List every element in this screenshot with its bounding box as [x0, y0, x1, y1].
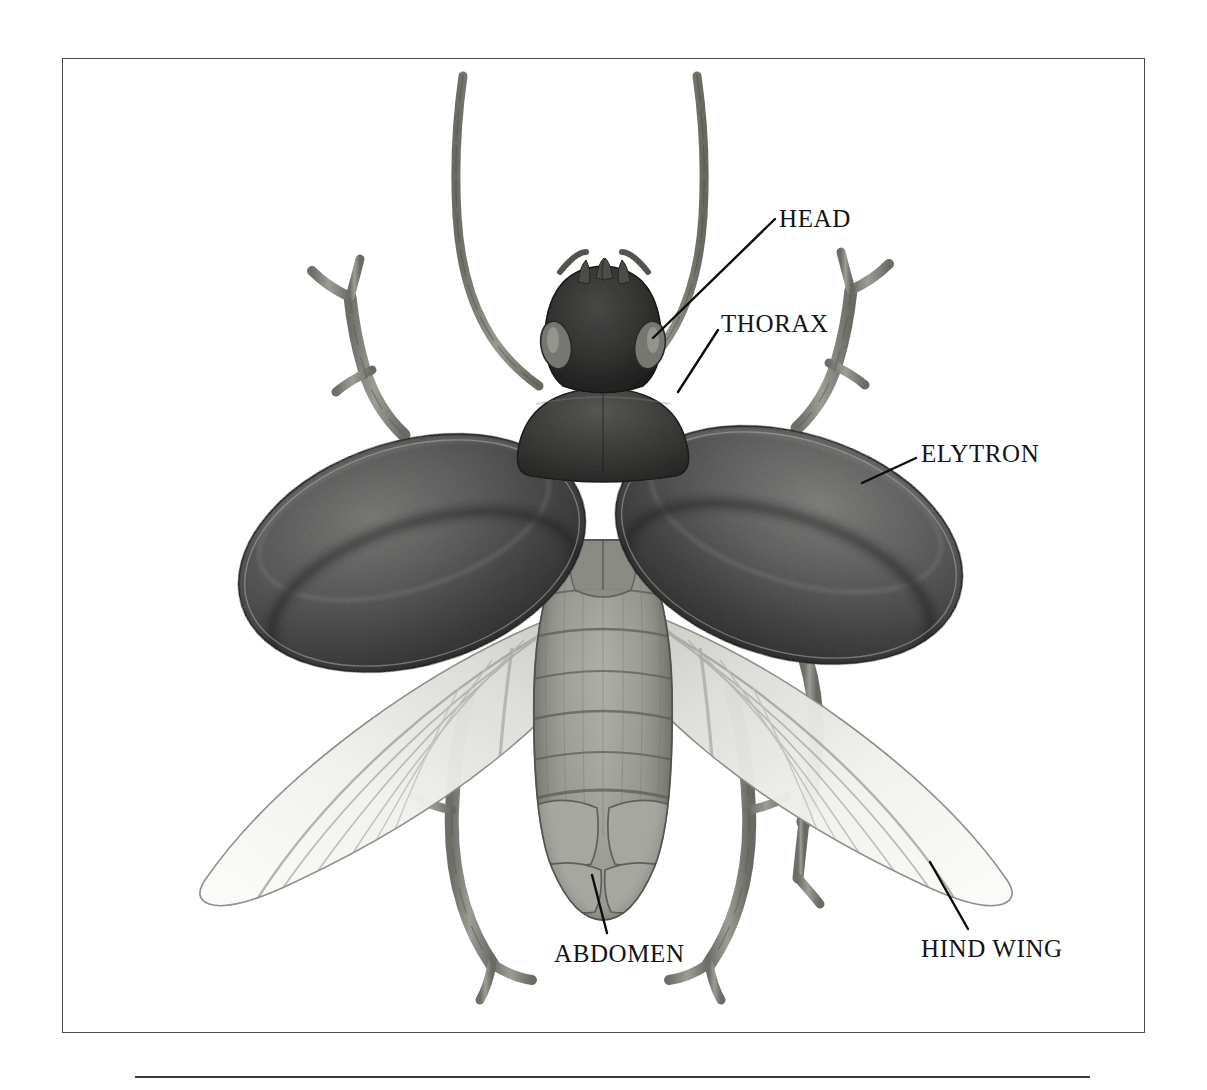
label-elytron: ELYTRON: [921, 441, 1039, 466]
label-abdomen: ABDOMEN: [554, 941, 685, 966]
illustration-page: HEAD THORAX ELYTRON ABDOMEN HIND WING: [0, 0, 1207, 1090]
label-thorax: THORAX: [721, 311, 829, 336]
plate-frame: [62, 58, 1145, 1033]
label-hind-wing: HIND WING: [921, 936, 1063, 961]
bottom-rule: [135, 1076, 1090, 1078]
label-head: HEAD: [779, 206, 851, 231]
